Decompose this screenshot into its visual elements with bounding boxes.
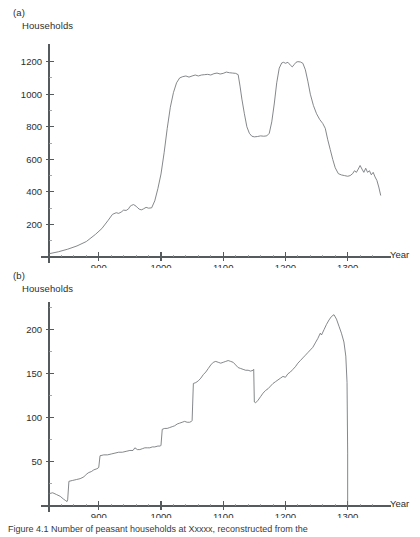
y-axis-tick-label: 150 xyxy=(26,368,42,379)
chart-panel-a: (a) Households Year 90010001100120013002… xyxy=(0,0,420,268)
x-axis-tick-label: 1200 xyxy=(275,511,296,518)
figure-container: (a) Households Year 90010001100120013002… xyxy=(0,0,420,537)
data-series-line xyxy=(49,62,381,254)
y-axis-tick-label: 50 xyxy=(31,456,42,467)
y-axis-tick-label: 1000 xyxy=(21,89,42,100)
data-series-line xyxy=(49,315,348,506)
chart-a-plot: 900100011001200130020040060080010001200 xyxy=(0,0,420,268)
chart-panel-b: (b) Households Year 90010001100120013005… xyxy=(0,268,420,518)
y-axis-tick-label: 800 xyxy=(26,121,42,132)
y-axis-tick-label: 400 xyxy=(26,186,42,197)
y-axis-tick-label: 600 xyxy=(26,154,42,165)
x-axis-tick-label: 1100 xyxy=(213,511,233,518)
y-axis-tick-label: 200 xyxy=(26,219,42,230)
y-axis-tick-label: 200 xyxy=(26,324,42,335)
x-axis-tick-label: 900 xyxy=(91,511,107,518)
y-axis-tick-label: 1200 xyxy=(21,56,42,67)
x-axis-tick-label: 1000 xyxy=(150,511,171,518)
figure-caption: Figure 4.1 Number of peasant households … xyxy=(8,524,412,537)
y-axis-tick-label: 100 xyxy=(26,412,42,423)
x-axis-tick-label: 1300 xyxy=(337,511,358,518)
chart-b-plot: 900100011001200130050100150200 xyxy=(0,268,420,518)
